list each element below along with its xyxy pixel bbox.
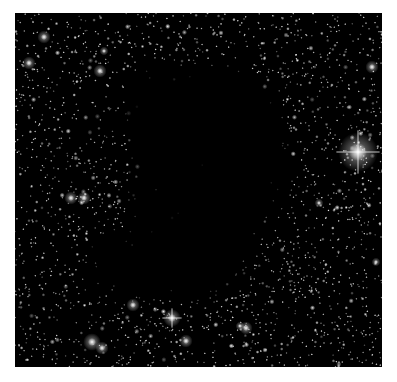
star-field-canvas <box>15 13 382 367</box>
star-field-image <box>15 13 382 367</box>
